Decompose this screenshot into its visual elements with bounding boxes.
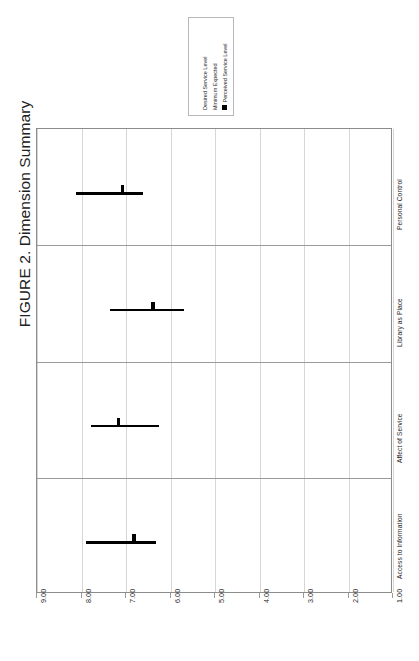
legend-label-perceived: Perceived Service Level (222, 44, 228, 103)
axis-tick-label: 9.00 (39, 589, 48, 603)
gridline-4-00 (260, 129, 261, 592)
gridline-9-00 (37, 129, 38, 592)
category-label-access-to-information: Access to Information (396, 514, 403, 580)
legend-item-perceived-service-level: Perceived Service Level (221, 44, 228, 110)
range-bar-access-to-information (86, 541, 156, 544)
page-title: FIGURE 2. Dimension Summary (16, 99, 34, 329)
axis-tick (214, 593, 215, 598)
axis-tick-label: 8.00 (84, 589, 93, 603)
panel-separator (37, 362, 391, 363)
gridline-3-00 (304, 129, 305, 592)
legend-item-desired-service-level: Desired Service Level (201, 57, 208, 110)
gridline-6-00 (171, 129, 172, 592)
axis-tick (392, 593, 393, 598)
legend-label-minimum: Minimum Expected (212, 63, 218, 110)
axis-tick (170, 593, 171, 598)
perceived-marker-affect-of-service (117, 418, 120, 427)
gridline-1-00 (393, 129, 394, 592)
gridline-2-00 (349, 129, 350, 592)
category-label-affect-of-service: Affect of Service (396, 413, 403, 463)
gridline-5-00 (215, 129, 216, 592)
axis-tick (303, 593, 304, 598)
gridline-8-00 (82, 129, 83, 592)
range-bar-personal-control (76, 192, 143, 195)
chart-plot-area (36, 128, 392, 593)
category-label-personal-control: Personal Control (396, 180, 403, 231)
axis-tick (259, 593, 260, 598)
axis-tick (348, 593, 349, 598)
perceived-marker-library-as-place (151, 302, 154, 311)
axis-tick-label: 4.00 (262, 589, 271, 603)
range-bar-library-as-place (110, 309, 185, 312)
perceived-marker-access-to-information (132, 534, 135, 543)
legend-item-minimum-expected: Minimum Expected (211, 63, 218, 110)
axis-tick-label: 1.00 (395, 589, 404, 603)
category-label-library-as-place: Library as Place (396, 298, 403, 347)
perceived-marker-personal-control (121, 185, 124, 194)
axis-tick (36, 593, 37, 598)
x-axis: 9.008.007.006.005.004.003.002.001.00 (36, 593, 392, 609)
range-bar-affect-of-service (91, 425, 159, 428)
legend-swatch-perceived (222, 105, 227, 110)
panel-separator (37, 245, 391, 246)
axis-tick (125, 593, 126, 598)
axis-tick-label: 2.00 (351, 589, 360, 603)
gridline-7-00 (126, 129, 127, 592)
axis-tick-label: 3.00 (306, 589, 315, 603)
axis-tick-label: 6.00 (173, 589, 182, 603)
panel-separator (37, 478, 391, 479)
chart-legend: Desired Service Level Minimum Expected P… (188, 17, 234, 116)
axis-tick-label: 7.00 (128, 589, 137, 603)
legend-label-desired: Desired Service Level (202, 57, 208, 110)
axis-tick (81, 593, 82, 598)
axis-tick-label: 5.00 (217, 589, 226, 603)
